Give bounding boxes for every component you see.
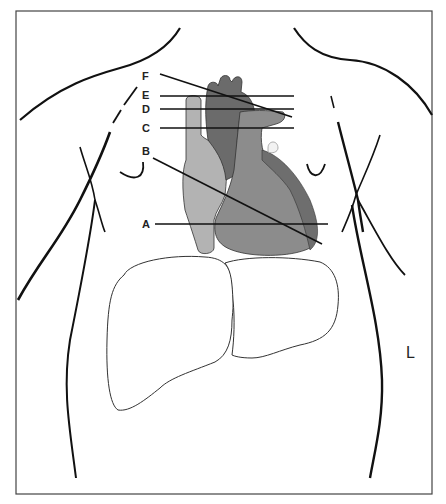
left-nipple [307,164,325,175]
left-flank-outline [352,205,382,478]
left-chest-line [338,122,363,232]
label-d: D [142,103,150,115]
right-arm-outline [18,132,110,300]
chest-diagram: F E D C B A L [0,0,446,504]
right-nipple [120,162,143,177]
right-shoulder-outline [20,28,180,120]
right-clavicle-dash [124,87,137,105]
liver-left-lobe [225,258,338,358]
liver-right-lobe [107,256,233,410]
label-c: C [142,122,150,134]
label-f: F [142,70,149,82]
left-shoulder-outline [294,28,432,115]
label-e: E [142,89,149,101]
right-clavicle-dash [113,110,121,123]
left-arm-outline [358,200,405,275]
right-flank-outline [67,200,95,478]
atrial-appendage [268,142,278,153]
left-side-indicator: L [406,344,415,361]
label-b: B [142,145,150,157]
left-clavicle-dash [331,96,334,108]
label-a: A [142,218,150,230]
